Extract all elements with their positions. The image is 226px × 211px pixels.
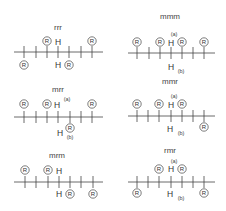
svg-text:R: R <box>180 166 185 172</box>
substituent-r: R <box>43 100 51 108</box>
substituent-r: R <box>20 100 28 108</box>
proton-top: H <box>54 100 60 110</box>
proton-sub-b: (b) <box>178 130 185 136</box>
proton-sub-b: (b) <box>178 68 185 74</box>
panel-mmm: mmm R R R R H (a) H (b) <box>128 12 215 74</box>
substituent-r: R <box>44 166 52 174</box>
svg-text:R: R <box>22 62 27 68</box>
svg-text:R: R <box>90 101 95 107</box>
svg-text:R: R <box>202 124 207 130</box>
substituent-r: R <box>88 100 96 108</box>
proton-bottom: H <box>167 124 173 134</box>
substituent-r: R <box>178 38 186 46</box>
substituent-r: R <box>20 61 28 69</box>
substituent-r: R <box>65 61 73 69</box>
proton-bottom: H <box>55 60 61 70</box>
substituent-r: R <box>133 100 141 108</box>
substituent-r: R <box>21 166 29 174</box>
svg-text:R: R <box>180 39 185 45</box>
panel-mmr: mmr R R R R H (a) H (b) <box>128 77 215 136</box>
proton-top: H <box>56 166 62 176</box>
svg-text:R: R <box>180 101 185 107</box>
substituent-r: R <box>43 37 51 45</box>
svg-text:R: R <box>68 125 73 131</box>
svg-text:R: R <box>90 38 95 44</box>
panel-rmr: rmr R R R R H (a) H (b) <box>128 146 215 201</box>
panel-title-rmr: rmr <box>164 146 176 155</box>
proton-sub-b: (b) <box>178 195 185 201</box>
substituent-r: R <box>133 38 141 46</box>
svg-text:R: R <box>157 166 162 172</box>
panel-mrr: mrr R R R R H (a) H (b) <box>14 85 103 140</box>
proton-top: H <box>168 164 174 174</box>
svg-text:R: R <box>68 191 73 197</box>
panel-mrm: mrm R R R R H H <box>14 151 103 199</box>
panel-title-mrm: mrm <box>49 151 65 160</box>
proton-top: H <box>168 38 174 48</box>
svg-text:R: R <box>135 101 140 107</box>
tetrad-diagram: rrr R R R R H H mmm R <box>0 0 226 211</box>
proton-sub-a: (a) <box>171 93 178 99</box>
panel-rrr: rrr R R R R H H <box>14 23 103 70</box>
panel-title-mmm: mmm <box>160 12 180 21</box>
substituent-r: R <box>89 190 97 198</box>
substituent-r: R <box>155 100 163 108</box>
svg-text:R: R <box>45 101 50 107</box>
panel-title-rrr: rrr <box>54 23 62 32</box>
svg-text:R: R <box>45 38 50 44</box>
proton-sub-b: (b) <box>67 134 74 140</box>
proton-top: H <box>168 100 174 110</box>
proton-top: H <box>55 37 61 47</box>
substituent-r: R <box>200 38 208 46</box>
proton-bottom: H <box>167 189 173 199</box>
svg-text:R: R <box>91 191 96 197</box>
svg-text:R: R <box>157 101 162 107</box>
substituent-r: R <box>155 165 163 173</box>
svg-text:R: R <box>202 190 207 196</box>
proton-sub-a: (a) <box>171 158 178 164</box>
substituent-r: R <box>178 100 186 108</box>
substituent-r: R <box>156 38 164 46</box>
proton-bottom: H <box>168 62 174 72</box>
svg-text:R: R <box>158 39 163 45</box>
svg-text:R: R <box>135 39 140 45</box>
panel-title-mmr: mmr <box>162 77 178 86</box>
substituent-r: R <box>133 189 141 197</box>
substituent-r: R <box>200 189 208 197</box>
substituent-r: R <box>66 190 74 198</box>
panel-title-mrr: mrr <box>52 85 64 94</box>
svg-text:R: R <box>22 101 27 107</box>
substituent-r: R <box>66 124 74 132</box>
proton-bottom: H <box>57 128 63 138</box>
substituent-r: R <box>178 165 186 173</box>
svg-text:R: R <box>67 62 72 68</box>
svg-text:R: R <box>202 39 207 45</box>
substituent-r: R <box>88 37 96 45</box>
svg-text:R: R <box>46 167 51 173</box>
svg-text:R: R <box>135 190 140 196</box>
proton-sub-a: (a) <box>171 31 178 37</box>
proton-sub-a: (a) <box>64 96 71 102</box>
proton-bottom: H <box>56 189 62 199</box>
svg-text:R: R <box>23 167 28 173</box>
substituent-r: R <box>200 123 208 131</box>
